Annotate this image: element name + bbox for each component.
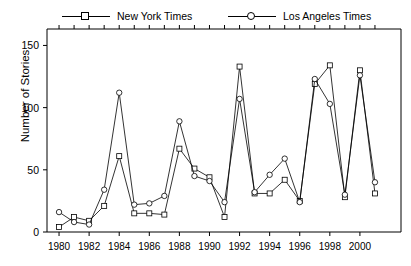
data-point-marker	[56, 209, 61, 214]
series-line-new-york-times	[59, 65, 375, 227]
y-tick-label: 100	[21, 102, 39, 114]
x-tick-label: 1998	[319, 241, 342, 252]
data-point-marker	[72, 215, 77, 220]
data-point-marker	[177, 146, 182, 151]
x-tick-label: 1982	[78, 241, 101, 252]
data-point-marker	[57, 225, 62, 230]
data-point-marker	[102, 203, 107, 208]
data-point-marker	[237, 64, 242, 69]
data-point-marker	[147, 201, 152, 206]
data-point-marker	[372, 191, 377, 196]
chart-figure: New York Times Los Angeles Times Number …	[0, 0, 411, 266]
data-point-marker	[282, 156, 287, 161]
data-point-marker	[327, 63, 332, 68]
data-point-marker	[117, 154, 122, 159]
data-point-marker	[177, 119, 182, 124]
x-tick-label: 1996	[289, 241, 312, 252]
data-point-marker	[147, 211, 152, 216]
data-point-marker	[267, 191, 272, 196]
data-point-marker	[237, 96, 242, 101]
data-point-marker	[252, 190, 257, 195]
data-point-marker	[327, 101, 332, 106]
data-point-marker	[357, 73, 362, 78]
data-point-marker	[101, 187, 106, 192]
data-point-marker	[342, 192, 347, 197]
data-point-marker	[282, 177, 287, 182]
data-point-marker	[192, 173, 197, 178]
x-tick-label: 1994	[259, 241, 282, 252]
data-point-marker	[267, 172, 272, 177]
data-point-marker	[86, 222, 91, 227]
plot-area: 0501001501980198219841986198819901992199…	[0, 0, 411, 266]
y-tick-label: 0	[33, 226, 39, 238]
y-tick-label: 150	[21, 39, 39, 51]
y-tick-label: 50	[27, 164, 39, 176]
x-tick-label: 2000	[349, 241, 372, 252]
data-point-marker	[162, 212, 167, 217]
data-point-marker	[222, 199, 227, 204]
data-point-marker	[132, 211, 137, 216]
x-tick-label: 1986	[138, 241, 161, 252]
data-point-marker	[207, 178, 212, 183]
data-point-marker	[297, 199, 302, 204]
series-line-los-angeles-times	[59, 75, 375, 224]
data-point-marker	[372, 180, 377, 185]
x-tick-label: 1980	[48, 241, 71, 252]
x-tick-label: 1992	[228, 241, 251, 252]
x-tick-label: 1990	[198, 241, 221, 252]
data-point-marker	[162, 193, 167, 198]
data-point-marker	[312, 76, 317, 81]
data-point-marker	[132, 202, 137, 207]
x-tick-label: 1984	[108, 241, 131, 252]
x-tick-label: 1988	[168, 241, 191, 252]
data-point-marker	[222, 215, 227, 220]
data-point-marker	[117, 90, 122, 95]
data-point-marker	[71, 219, 76, 224]
data-point-marker	[357, 68, 362, 73]
